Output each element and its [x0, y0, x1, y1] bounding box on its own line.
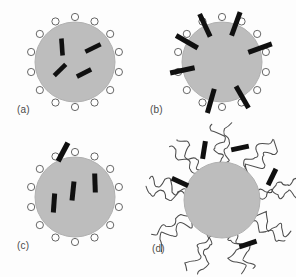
corona-bead: [28, 183, 35, 190]
corona-bead: [52, 99, 59, 106]
corona-bead: [107, 221, 114, 228]
polymer-chain: [224, 123, 232, 163]
corona-bead: [52, 18, 59, 25]
polymer-chain: [185, 234, 209, 271]
core-sphere: [184, 162, 260, 238]
panel-label-b: (b): [150, 104, 163, 115]
corona-bead: [28, 68, 35, 75]
corona-bead: [36, 30, 43, 37]
corona-bead: [91, 18, 98, 25]
rod: [72, 182, 74, 201]
polymer-chain: [152, 215, 189, 235]
panel-label-d: (d): [152, 243, 165, 254]
corona-bead: [115, 68, 122, 75]
rod: [203, 141, 206, 159]
corona-bead: [91, 99, 98, 106]
corona-bead: [71, 103, 78, 110]
rod: [53, 194, 54, 213]
corona-bead: [175, 48, 182, 55]
corona-bead: [52, 234, 59, 241]
corona-bead: [183, 30, 190, 37]
core-sphere: [35, 22, 115, 102]
corona-bead: [115, 48, 122, 55]
corona-bead: [107, 165, 114, 172]
polymer-chain: [150, 176, 187, 195]
polymer-chain: [228, 236, 247, 274]
corona-bead: [262, 68, 269, 75]
corona-bead: [28, 48, 35, 55]
corona-bead: [36, 86, 43, 93]
panel-a: [28, 13, 123, 110]
figure-canvas: [0, 0, 296, 277]
corona-bead: [115, 183, 122, 190]
corona-bead: [91, 153, 98, 160]
rod: [95, 174, 96, 193]
core-sphere: [35, 157, 115, 237]
panel-label-c: (c): [17, 240, 29, 251]
panel-label-a: (a): [17, 104, 30, 115]
corona-bead: [254, 30, 261, 37]
corona-bead: [71, 148, 78, 155]
panel-c: [28, 143, 123, 246]
rod: [172, 178, 188, 186]
polymer-chain: [236, 234, 255, 269]
corona-bead: [107, 86, 114, 93]
polymer-chain: [170, 146, 197, 173]
rod: [61, 39, 62, 56]
panel-d: [146, 123, 296, 274]
rod: [268, 169, 276, 185]
corona-bead: [91, 234, 98, 241]
corona-bead: [28, 203, 35, 210]
panel-b: [170, 12, 272, 113]
figure-container: (a) (b) (c) (d): [0, 0, 296, 277]
polymer-chain: [177, 140, 201, 170]
corona-bead: [254, 86, 261, 93]
corona-bead: [107, 30, 114, 37]
polymer-chain: [210, 124, 225, 163]
corona-bead: [115, 203, 122, 210]
corona-bead: [218, 103, 225, 110]
corona-bead: [199, 99, 206, 106]
corona-bead: [71, 238, 78, 245]
corona-bead: [36, 165, 43, 172]
polymer-chain: [146, 186, 185, 200]
corona-bead: [218, 13, 225, 20]
corona-bead: [71, 13, 78, 20]
rod: [239, 241, 256, 247]
rod: [231, 146, 249, 150]
corona-bead: [183, 86, 190, 93]
corona-bead: [36, 221, 43, 228]
core-sphere: [182, 22, 262, 102]
polymer-chain: [245, 140, 277, 174]
